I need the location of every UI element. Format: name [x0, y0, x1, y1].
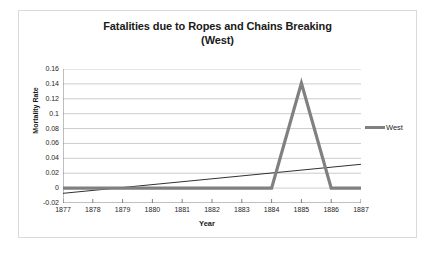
- chart-title: Fatalities due to Ropes and Chains Break…: [19, 19, 416, 47]
- x-axis-tick-label: 1880: [137, 205, 167, 214]
- y-axis-tick-label: 0.04: [25, 154, 59, 162]
- x-axis-tick-label: 1885: [286, 205, 316, 214]
- legend-swatch-west: [365, 126, 385, 129]
- x-axis-tick-label: 1878: [78, 205, 108, 214]
- chart-container: Fatalities due to Ropes and Chains Break…: [18, 10, 417, 238]
- y-axis-tick-label: 0.08: [25, 125, 59, 133]
- y-axis-tick-label: 0.16: [25, 65, 59, 73]
- chart-title-line1: Fatalities due to Ropes and Chains Break…: [103, 20, 332, 32]
- x-axis-tick-label: 1882: [197, 205, 227, 214]
- x-axis-tick-label: 1881: [167, 205, 197, 214]
- y-axis-tick-label: 0.1: [25, 110, 59, 118]
- y-axis-tick-label: 0.12: [25, 95, 59, 103]
- chart-plot-svg: [63, 69, 361, 203]
- y-axis-tick-label: 0: [25, 184, 59, 192]
- y-axis-tick-label: 0.06: [25, 139, 59, 147]
- y-axis-tick-label: 0.02: [25, 169, 59, 177]
- x-axis-tick-label: 1877: [48, 205, 78, 214]
- x-axis-tick-labels: 1877187818791880188118821883188418851886…: [63, 205, 361, 217]
- x-axis-tick-label: 1887: [346, 205, 376, 214]
- x-axis-tick-label: 1883: [227, 205, 257, 214]
- plot-area: [63, 69, 361, 203]
- x-axis-title: Year: [57, 219, 357, 228]
- legend-label-west: West: [386, 123, 403, 132]
- x-axis-tick-label: 1879: [108, 205, 138, 214]
- x-axis-tick-label: 1884: [257, 205, 287, 214]
- chart-legend: West: [365, 123, 403, 132]
- y-axis-tick-labels: 0.160.140.120.10.080.060.040.020-0.02: [25, 69, 59, 203]
- x-axis-tick-label: 1886: [316, 205, 346, 214]
- chart-title-line2: (West): [19, 33, 416, 47]
- y-axis-tick-label: 0.14: [25, 80, 59, 88]
